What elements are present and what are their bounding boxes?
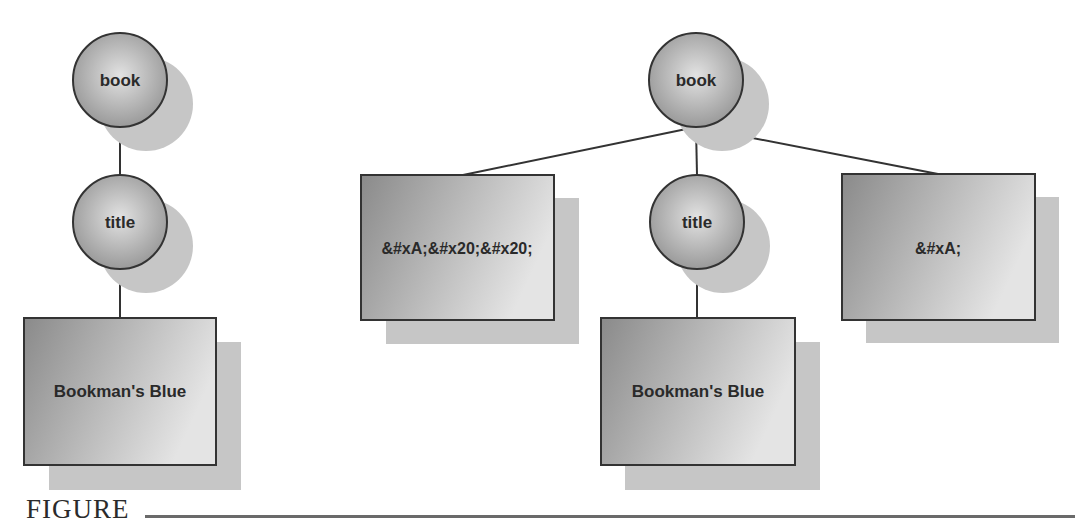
node-label: title	[105, 213, 135, 232]
node-label: Bookman's Blue	[54, 382, 187, 401]
right-title-node: title	[650, 175, 770, 293]
right-whitespace-node-2: &#xA;	[842, 174, 1059, 343]
node-label: title	[682, 213, 712, 232]
node-label: &#xA;	[915, 240, 961, 257]
figure-caption: FIGURE	[26, 494, 130, 523]
edge-book-whitespace1	[463, 127, 696, 175]
right-whitespace-node-1: &#xA;&#x20;&#x20;	[361, 175, 579, 344]
left-title-node: title	[73, 175, 193, 293]
tree-diagram: book title Bookman's Blue book	[0, 0, 1086, 523]
right-text-leaf-node: Bookman's Blue	[601, 318, 820, 490]
node-label: Bookman's Blue	[632, 382, 765, 401]
node-label: &#xA;&#x20;&#x20;	[381, 240, 532, 257]
node-label: book	[676, 71, 717, 90]
left-book-node: book	[73, 33, 193, 151]
left-text-leaf-node: Bookman's Blue	[24, 318, 241, 490]
caption-rule	[145, 515, 1075, 518]
right-tree: book &#xA;&#x20;&#x20; title &#xA; Bookm…	[361, 33, 1059, 490]
left-tree: book title Bookman's Blue	[24, 33, 241, 490]
node-label: book	[100, 71, 141, 90]
